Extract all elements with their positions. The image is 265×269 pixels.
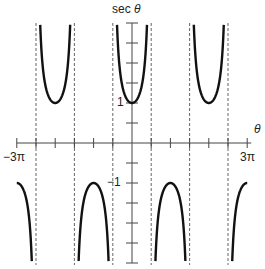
y-tick-label-minus-1: −1 bbox=[107, 176, 121, 188]
axes bbox=[17, 23, 251, 263]
title-theta: θ bbox=[134, 2, 141, 16]
secant-branch bbox=[155, 183, 185, 261]
secant-branch bbox=[79, 183, 109, 261]
secant-branch bbox=[40, 25, 70, 103]
y-tick-label-1: 1 bbox=[117, 96, 124, 108]
title-text: sec bbox=[112, 2, 134, 16]
x-tick-label-neg-3pi: −3π bbox=[3, 151, 25, 163]
chart-title: sec θ bbox=[112, 3, 141, 15]
x-tick-label-3pi: 3π bbox=[240, 151, 255, 163]
x-axis-label: θ bbox=[254, 123, 261, 135]
secant-branch bbox=[194, 25, 224, 103]
secant-chart bbox=[0, 0, 265, 269]
secant-branch bbox=[232, 183, 247, 261]
secant-branch bbox=[17, 183, 32, 261]
